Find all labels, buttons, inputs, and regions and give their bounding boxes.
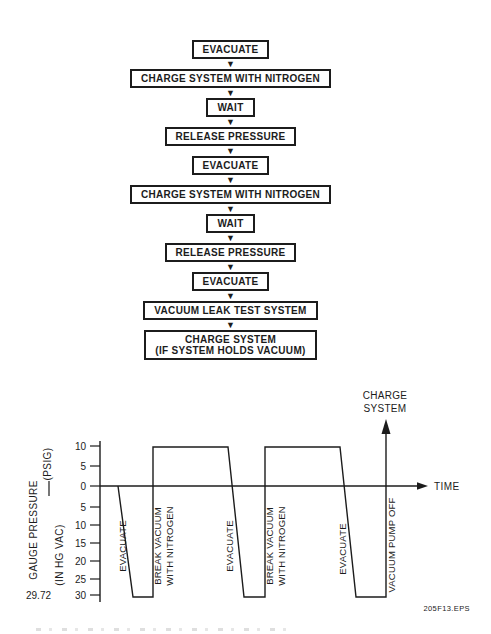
tick-label-zero: 0 bbox=[80, 481, 86, 492]
tick-label-vac-5: 5 bbox=[80, 502, 86, 513]
vac-unit-label: (IN HG VAC) bbox=[54, 524, 65, 585]
phase-label-evacuate-2: EVACUATE bbox=[224, 520, 235, 571]
scanned-procedure-diagram: EVACUATE ▼ CHARGE SYSTEM WITH NITROGEN ▼… bbox=[0, 0, 491, 634]
y-axis-title: GAUGE PRESSURE bbox=[28, 480, 39, 580]
tick-label-psig-10: 10 bbox=[75, 441, 87, 452]
phase-label-break-vacuum-1-line1: BREAK VACUUM bbox=[152, 507, 163, 585]
phase-label-break-vacuum-1-line2: WITH NITROGEN bbox=[164, 506, 175, 586]
tick-label-psig-5: 5 bbox=[80, 461, 86, 472]
phase-label-evacuate-1: EVACUATE bbox=[117, 520, 128, 571]
tick-label-vac-30: 30 bbox=[75, 590, 87, 601]
phase-label-break-vacuum-2-line1: BREAK VACUUM bbox=[264, 507, 275, 585]
time-axis-arrowhead-icon bbox=[417, 482, 428, 490]
charge-system-annotation-line1: CHARGE bbox=[363, 390, 408, 401]
psig-unit-label: (PSIG) bbox=[42, 448, 53, 481]
phase-label-vacuum-pump-off: VACUUM PUMP OFF bbox=[386, 497, 397, 592]
phase-label-break-vacuum-2-line2: WITH NITROGEN bbox=[276, 506, 287, 586]
charge-system-arrowhead-icon bbox=[382, 419, 391, 434]
time-axis-label: TIME bbox=[434, 481, 460, 492]
figure-code: 205F13.EPS bbox=[423, 604, 470, 613]
vacuum-reference-value: 29.72 bbox=[26, 590, 51, 601]
phase-label-evacuate-3: EVACUATE bbox=[337, 523, 348, 574]
tick-label-vac-20: 20 bbox=[75, 556, 87, 567]
tick-label-vac-25: 25 bbox=[75, 574, 87, 585]
charge-system-annotation-line2: SYSTEM bbox=[364, 403, 407, 414]
cutoff-caption-remnant bbox=[36, 628, 292, 631]
tick-label-vac-10: 10 bbox=[75, 520, 87, 531]
pressure-time-graph: TIME 10 5 0 5 10 15 20 25 30 GAUGE PRESS… bbox=[0, 0, 491, 634]
tick-label-vac-15: 15 bbox=[75, 538, 87, 549]
